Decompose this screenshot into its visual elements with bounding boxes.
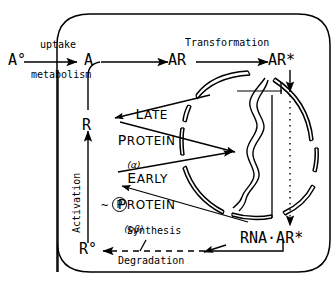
label-early-protein: EARLY PROTEIN (pβ) <box>100 159 168 258</box>
late-protein-line1-cap: L <box>136 106 144 122</box>
node-a-extracellular: A° <box>8 53 26 68</box>
edge-label-activation: Activation <box>72 173 82 233</box>
node-rna-ar-star: RNA·AR* <box>240 231 303 246</box>
edge-label-metabolism: metabolism <box>31 70 91 80</box>
node-r-zero: R° <box>79 242 97 257</box>
node-ar-star: AR* <box>268 53 295 68</box>
edge-label-transformation: Transformation <box>185 38 269 48</box>
late-protein-line1: ATE <box>144 108 168 122</box>
node-ar: AR <box>168 53 186 68</box>
early-protein-line1: ARLY <box>137 172 168 186</box>
edge-label-degradation: Degradation <box>118 256 184 266</box>
nucleus-envelope <box>180 71 318 220</box>
node-a-intracellular: A <box>84 53 93 68</box>
early-protein-line2-cap: P <box>118 196 127 212</box>
early-protein-line1-cap: E <box>127 170 136 186</box>
late-protein-line2: ROTEIN <box>127 134 176 148</box>
diagram-canvas: A° A AR AR* RNA·AR* R R° uptake metaboli… <box>0 0 336 285</box>
late-protein-line2-cap: P <box>118 132 127 148</box>
genome-double-helix <box>233 78 268 211</box>
early-protein-line2: ROTEIN <box>127 198 176 212</box>
edge-label-uptake: uptake <box>40 40 76 50</box>
node-r: R <box>82 118 91 133</box>
early-protein-gene: (pβ) <box>100 224 168 234</box>
